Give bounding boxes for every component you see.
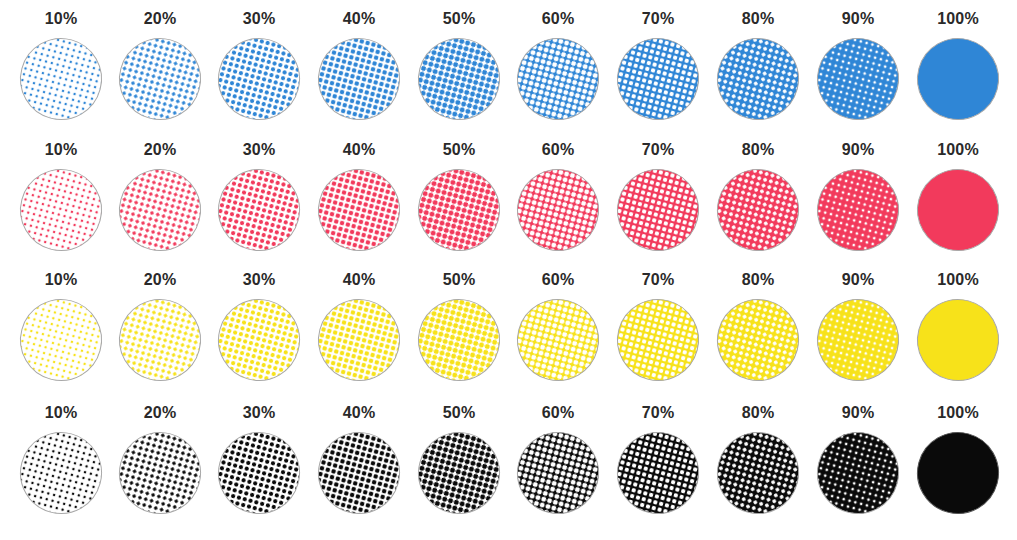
halftone-swatch-black	[209, 423, 309, 523]
swatch-cell: 40%	[309, 404, 409, 534]
halftone-swatch-magenta	[608, 160, 708, 260]
swatch-cell: 80%	[708, 404, 808, 534]
swatch-cell: 80%	[708, 271, 808, 401]
swatch-cell: 70%	[608, 404, 708, 534]
halftone-swatch-black	[708, 423, 808, 523]
tint-label: 100%	[908, 271, 1008, 289]
swatch-cell: 100%	[908, 404, 1008, 534]
swatch-cell: 100%	[908, 141, 1008, 271]
halftone-swatch-cyan	[508, 29, 608, 129]
halftone-swatch-magenta	[708, 160, 808, 260]
tint-label: 40%	[309, 10, 409, 28]
swatch-cell: 90%	[808, 141, 908, 271]
halftone-swatch-cyan	[708, 29, 808, 129]
swatch-cell: 50%	[409, 404, 509, 534]
halftone-swatch-yellow	[11, 290, 111, 390]
tint-label: 10%	[11, 404, 111, 422]
halftone-swatch-grid: 10%20%30%40%50%60%70%80%90%100%10%20%30%…	[0, 0, 1017, 540]
tint-label: 30%	[209, 10, 309, 28]
halftone-swatch-black	[11, 423, 111, 523]
halftone-swatch-yellow	[209, 290, 309, 390]
swatch-cell: 10%	[11, 141, 111, 271]
tint-label: 60%	[508, 271, 608, 289]
tint-label: 30%	[209, 141, 309, 159]
swatch-cell: 60%	[508, 10, 608, 140]
halftone-swatch-black	[309, 423, 409, 523]
swatch-cell: 40%	[309, 271, 409, 401]
swatch-cell: 10%	[11, 404, 111, 534]
swatch-cell: 20%	[110, 141, 210, 271]
halftone-swatch-black	[908, 423, 1008, 523]
tint-label: 90%	[808, 271, 908, 289]
halftone-swatch-magenta	[508, 160, 608, 260]
tint-label: 20%	[110, 141, 210, 159]
tint-label: 50%	[409, 271, 509, 289]
swatch-cell: 30%	[209, 10, 309, 140]
tint-label: 40%	[309, 271, 409, 289]
halftone-swatch-cyan	[309, 29, 409, 129]
halftone-swatch-black	[110, 423, 210, 523]
tint-label: 80%	[708, 271, 808, 289]
swatch-cell: 100%	[908, 271, 1008, 401]
halftone-swatch-cyan	[808, 29, 908, 129]
halftone-swatch-yellow	[908, 290, 1008, 390]
halftone-swatch-cyan	[11, 29, 111, 129]
tint-label: 60%	[508, 10, 608, 28]
tint-label: 20%	[110, 404, 210, 422]
tint-label: 10%	[11, 10, 111, 28]
tint-label: 100%	[908, 141, 1008, 159]
halftone-swatch-magenta	[808, 160, 908, 260]
tint-label: 90%	[808, 404, 908, 422]
swatch-cell: 90%	[808, 10, 908, 140]
tint-label: 40%	[309, 404, 409, 422]
swatch-cell: 40%	[309, 10, 409, 140]
tint-label: 100%	[908, 404, 1008, 422]
halftone-swatch-black	[808, 423, 908, 523]
tint-label: 30%	[209, 404, 309, 422]
tint-label: 70%	[608, 10, 708, 28]
halftone-swatch-yellow	[508, 290, 608, 390]
tint-label: 40%	[309, 141, 409, 159]
swatch-cell: 50%	[409, 141, 509, 271]
tint-label: 90%	[808, 141, 908, 159]
swatch-cell: 80%	[708, 141, 808, 271]
swatch-cell: 30%	[209, 404, 309, 534]
tint-label: 80%	[708, 404, 808, 422]
halftone-swatch-yellow	[309, 290, 409, 390]
swatch-cell: 70%	[608, 271, 708, 401]
swatch-cell: 10%	[11, 271, 111, 401]
halftone-swatch-magenta	[11, 160, 111, 260]
tint-label: 70%	[608, 141, 708, 159]
swatch-cell: 80%	[708, 10, 808, 140]
tint-label: 80%	[708, 10, 808, 28]
swatch-cell: 100%	[908, 10, 1008, 140]
swatch-cell: 20%	[110, 271, 210, 401]
halftone-swatch-cyan	[110, 29, 210, 129]
swatch-cell: 60%	[508, 141, 608, 271]
halftone-swatch-magenta	[309, 160, 409, 260]
tint-label: 50%	[409, 141, 509, 159]
tint-label: 10%	[11, 271, 111, 289]
halftone-swatch-yellow	[808, 290, 908, 390]
swatch-row-yellow: 10%20%30%40%50%60%70%80%90%100%	[0, 271, 1017, 401]
swatch-cell: 90%	[808, 271, 908, 401]
halftone-swatch-magenta	[908, 160, 1008, 260]
tint-label: 60%	[508, 141, 608, 159]
halftone-swatch-cyan	[409, 29, 509, 129]
swatch-cell: 50%	[409, 271, 509, 401]
tint-label: 60%	[508, 404, 608, 422]
tint-label: 90%	[808, 10, 908, 28]
swatch-cell: 50%	[409, 10, 509, 140]
swatch-cell: 90%	[808, 404, 908, 534]
halftone-swatch-cyan	[908, 29, 1008, 129]
halftone-swatch-yellow	[409, 290, 509, 390]
tint-label: 20%	[110, 271, 210, 289]
swatch-cell: 30%	[209, 141, 309, 271]
halftone-swatch-cyan	[608, 29, 708, 129]
tint-label: 100%	[908, 10, 1008, 28]
swatch-cell: 20%	[110, 404, 210, 534]
swatch-cell: 60%	[508, 271, 608, 401]
halftone-swatch-magenta	[209, 160, 309, 260]
tint-label: 10%	[11, 141, 111, 159]
halftone-swatch-black	[409, 423, 509, 523]
